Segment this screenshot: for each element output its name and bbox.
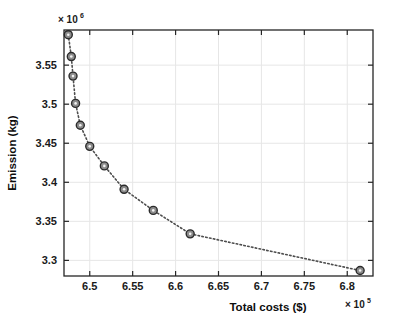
svg-text:× 10: × 10 — [345, 299, 365, 310]
data-point — [149, 206, 157, 214]
data-point — [186, 230, 194, 238]
x-tick-label: 6.75 — [294, 280, 315, 292]
y-tick-label: 3.35 — [36, 215, 57, 227]
data-point — [356, 267, 364, 275]
x-axis-title: Total costs ($) — [229, 301, 306, 313]
y-axis-tick-labels: 3.33.353.43.453.53.55 — [36, 59, 58, 266]
x-tick-label: 6.5 — [82, 280, 97, 292]
data-point — [100, 162, 108, 170]
data-point — [86, 142, 94, 150]
data-point — [64, 31, 72, 39]
y-tick-label: 3.3 — [42, 254, 57, 266]
svg-text:× 10: × 10 — [58, 14, 78, 25]
y-axis-title: Emission (kg) — [6, 115, 18, 191]
svg-text:6: 6 — [80, 12, 84, 19]
data-point — [67, 53, 75, 61]
svg-text:5: 5 — [367, 297, 371, 304]
x-tick-label: 6.6 — [168, 280, 183, 292]
x-tick-label: 6.8 — [340, 280, 355, 292]
x-axis-tick-labels: 6.56.556.66.656.76.756.8 — [82, 280, 355, 292]
x-tick-label: 6.7 — [254, 280, 269, 292]
x-tick-label: 6.55 — [122, 280, 143, 292]
x-axis-multiplier: × 10 5 — [345, 297, 371, 310]
chart-figure: 6.56.556.66.656.76.756.8 3.33.353.43.453… — [0, 0, 394, 326]
y-tick-label: 3.45 — [36, 137, 57, 149]
data-point — [76, 121, 84, 129]
data-point — [120, 185, 128, 193]
y-tick-label: 3.4 — [42, 176, 58, 188]
y-tick-label: 3.55 — [36, 59, 57, 71]
y-tick-label: 3.5 — [42, 98, 57, 110]
data-point — [72, 99, 80, 107]
emission-vs-cost-scatter-plot: 6.56.556.66.656.76.756.8 3.33.353.43.453… — [0, 0, 394, 326]
x-tick-label: 6.65 — [208, 280, 229, 292]
data-point — [69, 72, 77, 80]
y-axis-multiplier: × 10 6 — [58, 12, 84, 25]
